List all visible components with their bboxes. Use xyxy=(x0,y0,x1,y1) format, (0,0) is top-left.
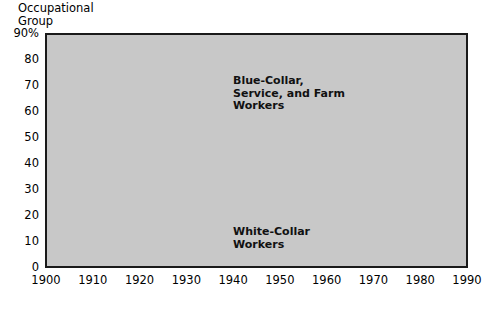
x-tick-label: 1910 xyxy=(78,274,107,286)
y-tick-label: 90% xyxy=(13,28,39,39)
y-tick-label: 0 xyxy=(32,262,39,273)
x-tick-label: 1960 xyxy=(312,274,341,286)
y-tick-label: 30 xyxy=(24,184,39,195)
x-tick-label: 1990 xyxy=(452,274,481,286)
y-tick-label: 10 xyxy=(24,236,39,247)
x-tick-label: 1980 xyxy=(406,274,435,286)
y-tick-label: 70 xyxy=(24,80,39,91)
y-tick-label: 50 xyxy=(24,132,39,143)
x-tick-label: 1930 xyxy=(172,274,201,286)
y-axis: 90% 80 70 60 50 40 30 20 10 0 xyxy=(0,0,45,311)
y-tick-label: 80 xyxy=(24,54,39,65)
x-tick-label: 1920 xyxy=(125,274,154,286)
x-tick-label: 1950 xyxy=(265,274,294,286)
plot-area: Blue-Collar, Service, and Farm Workers W… xyxy=(45,33,468,268)
series-label-white-collar: White-Collar Workers xyxy=(233,226,310,251)
y-tick-label: 40 xyxy=(24,158,39,169)
series-label-blue-collar: Blue-Collar, Service, and Farm Workers xyxy=(233,75,345,113)
occupational-group-chart: Occupational Group 90% 80 70 60 50 40 30… xyxy=(0,0,494,311)
y-tick-label: 20 xyxy=(24,210,39,221)
x-tick-label: 1970 xyxy=(359,274,388,286)
x-tick-label: 1940 xyxy=(218,274,247,286)
y-tick-label: 60 xyxy=(24,106,39,117)
x-tick-label: 1900 xyxy=(31,274,60,286)
